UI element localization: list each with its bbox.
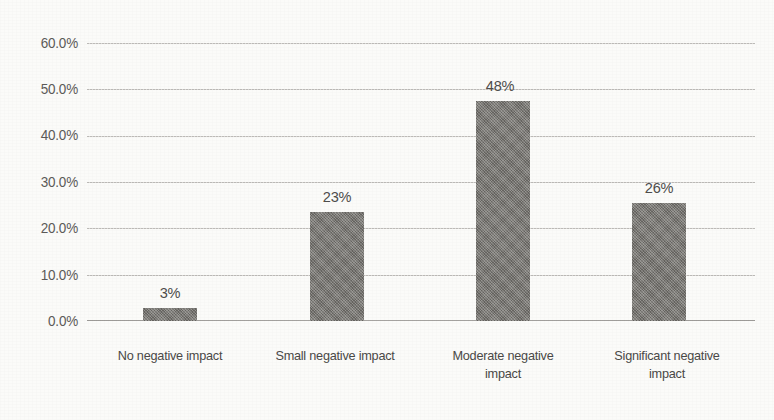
y-axis-tick-label: 60.0% (20, 35, 78, 51)
y-axis-tick-label: 30.0% (20, 174, 78, 190)
data-label-small-negative-impact: 23% (304, 188, 370, 206)
x-axis-label-line1: Moderate negative (452, 348, 553, 363)
x-axis-label-line1: Significant negative (614, 348, 719, 363)
x-axis-labels: No negative impact Small negative impact… (87, 347, 755, 407)
gridline-50 (87, 89, 755, 90)
y-axis-tick-label: 0.0% (20, 313, 78, 329)
x-axis-label-no-negative-impact: No negative impact (104, 347, 236, 365)
bar-moderate-negative-impact[interactable] (476, 101, 530, 321)
x-axis-label-line1: No negative impact (118, 348, 222, 363)
y-axis-labels: 60.0% 50.0% 40.0% 30.0% 20.0% 10.0% 0.0% (14, 43, 78, 321)
y-axis-tick-label: 10.0% (20, 267, 78, 283)
bar-small-negative-impact[interactable] (310, 212, 364, 321)
bar-significant-negative-impact[interactable] (632, 203, 686, 321)
x-axis-label-moderate-negative-impact: Moderate negative impact (434, 347, 571, 383)
data-label-no-negative-impact: 3% (137, 284, 203, 302)
gridline-60 (87, 43, 755, 44)
x-axis-label-significant-negative-impact: Significant negative impact (597, 347, 738, 383)
y-axis-tick-label: 20.0% (20, 220, 78, 236)
x-axis-label-small-negative-impact: Small negative impact (264, 347, 407, 365)
bar-no-negative-impact[interactable] (143, 308, 197, 321)
gridline-40 (87, 136, 755, 137)
chart-canvas: 60.0% 50.0% 40.0% 30.0% 20.0% 10.0% 0.0%… (0, 0, 774, 420)
y-axis-tick-label: 40.0% (20, 127, 78, 143)
x-axis-label-line2: impact (434, 365, 571, 383)
data-label-significant-negative-impact: 26% (626, 179, 692, 197)
x-axis-label-line2: impact (597, 365, 738, 383)
data-label-moderate-negative-impact: 48% (467, 77, 533, 95)
plot-area: 3% 23% 48% 26% (87, 43, 755, 321)
y-axis-tick-label: 50.0% (20, 81, 78, 97)
x-axis-label-line1: Small negative impact (275, 348, 394, 363)
